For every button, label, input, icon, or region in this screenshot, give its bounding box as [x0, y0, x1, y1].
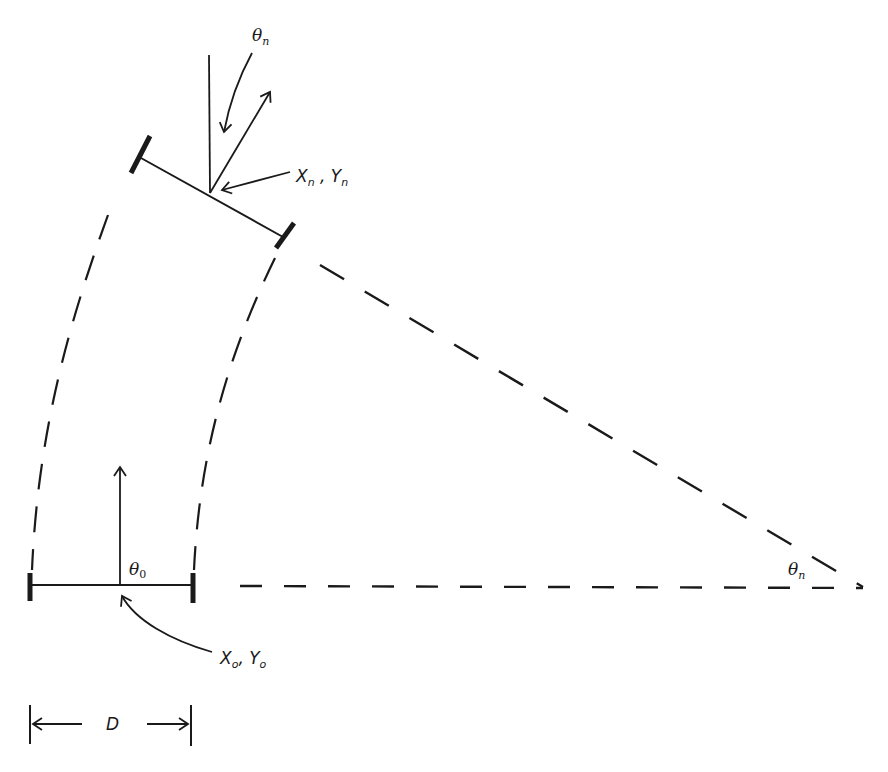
robot-arc-diagram: θn Xn , Yn θ0 Xo, Yo θn D [0, 0, 888, 772]
xn-yn-pointer-arrow [222, 172, 290, 190]
left-wheel-rotated [131, 136, 150, 173]
rotated-heading-arrow [210, 92, 270, 193]
left-wheel-arc-path [32, 215, 108, 570]
theta-n-curved-arrow [224, 53, 252, 132]
vertical-reference-line [209, 55, 210, 193]
initial-axle [30, 573, 193, 603]
radius-line-initial [240, 586, 863, 588]
right-wheel-arc-path [194, 258, 275, 570]
d-dimension-label: D [106, 714, 119, 734]
radius-line-rotated [320, 265, 863, 587]
x0-y0-pointer-arrow [122, 596, 212, 652]
x0-y0-label: Xo, Yo [219, 648, 267, 671]
theta-n-top-label: θn [252, 25, 269, 48]
xn-yn-label: Xn , Yn [295, 166, 348, 189]
theta-n-pivot-label: θn [788, 559, 805, 582]
theta-0-label: θ0 [129, 559, 146, 581]
rotated-axle [131, 136, 294, 248]
